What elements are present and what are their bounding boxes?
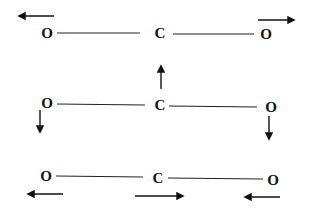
oxygen-atom-label: O: [267, 172, 279, 188]
mode-asymmetric-stretch: OCO: [28, 168, 280, 197]
co2-vibration-diagram: OCOOCOOCO: [0, 0, 310, 211]
bond-line: [169, 106, 257, 107]
oxygen-atom-label: O: [41, 25, 53, 41]
oxygen-atom-label: O: [260, 26, 272, 42]
carbon-atom-label: C: [153, 170, 164, 186]
mode-symmetric-stretch: OCO: [19, 16, 294, 42]
bond-line: [57, 104, 145, 105]
oxygen-atom-label: O: [41, 95, 53, 111]
bond-line: [168, 178, 263, 179]
oxygen-atom-label: O: [265, 99, 277, 115]
oxygen-atom-label: O: [40, 168, 52, 184]
vibration-modes: OCOOCOOCO: [19, 16, 294, 197]
carbon-atom-label: C: [155, 25, 166, 41]
mode-bending: OCO: [40, 66, 277, 139]
carbon-atom-label: C: [155, 97, 166, 113]
bond-line: [56, 176, 143, 177]
